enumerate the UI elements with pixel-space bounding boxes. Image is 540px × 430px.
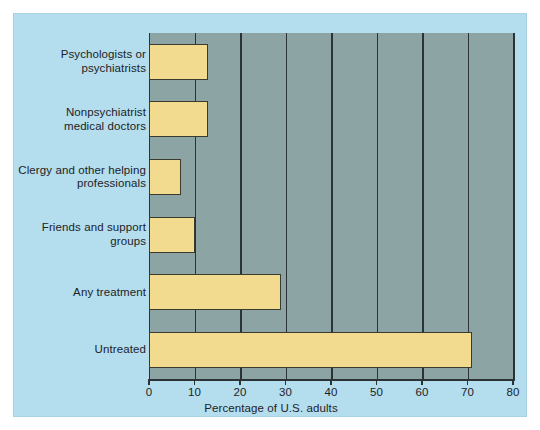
x-tick-60 xyxy=(421,379,423,385)
x-tick-label-70: 70 xyxy=(448,386,488,398)
category-label-line: Friends and support xyxy=(0,221,146,235)
x-tick-40 xyxy=(330,379,332,385)
x-tick-label-0: 0 xyxy=(129,386,169,398)
bar-2 xyxy=(149,159,181,195)
x-tick-30 xyxy=(285,379,287,385)
x-tick-label-80: 80 xyxy=(493,386,533,398)
category-label-0: Psychologists orpsychiatrists xyxy=(0,48,146,75)
bar-1 xyxy=(149,101,208,137)
x-axis-line xyxy=(149,379,515,381)
bar-row xyxy=(149,91,513,149)
x-tick-0 xyxy=(148,379,150,385)
category-label-2: Clergy and other helpingprofessionals xyxy=(0,164,146,191)
category-label-line: Nonpsychiatrist xyxy=(0,106,146,120)
category-label-line: professionals xyxy=(0,177,146,191)
x-tick-label-40: 40 xyxy=(311,386,351,398)
bar-5 xyxy=(149,332,472,368)
category-label-line: Any treatment xyxy=(0,286,146,300)
bar-4 xyxy=(149,274,281,310)
x-tick-label-20: 20 xyxy=(220,386,260,398)
category-label-line: medical doctors xyxy=(0,120,146,134)
category-label-5: Untreated xyxy=(0,343,146,357)
category-label-line: Untreated xyxy=(0,343,146,357)
x-tick-20 xyxy=(239,379,241,385)
x-tick-label-50: 50 xyxy=(357,386,397,398)
bar-row xyxy=(149,264,513,322)
category-label-line: Psychologists or xyxy=(0,48,146,62)
x-axis-label: Percentage of U.S. adults xyxy=(14,402,528,414)
x-tick-70 xyxy=(467,379,469,385)
bar-row xyxy=(149,321,513,379)
category-label-1: Nonpsychiatristmedical doctors xyxy=(0,106,146,133)
x-tick-label-60: 60 xyxy=(402,386,442,398)
bar-row xyxy=(149,33,513,91)
category-label-line: groups xyxy=(0,235,146,249)
bar-0 xyxy=(149,44,208,80)
x-tick-10 xyxy=(194,379,196,385)
x-tick-label-10: 10 xyxy=(175,386,215,398)
x-tick-50 xyxy=(376,379,378,385)
bar-row xyxy=(149,206,513,264)
category-label-4: Any treatment xyxy=(0,286,146,300)
category-label-line: psychiatrists xyxy=(0,62,146,76)
bar-3 xyxy=(149,217,195,253)
x-tick-label-30: 30 xyxy=(266,386,306,398)
category-label-line: Clergy and other helping xyxy=(0,164,146,178)
x-tick-80 xyxy=(512,379,514,385)
category-label-3: Friends and supportgroups xyxy=(0,221,146,248)
gridline-80 xyxy=(513,33,515,379)
chart-figure: Psychologists orpsychiatristsNonpsychiat… xyxy=(13,13,527,417)
bar-row xyxy=(149,148,513,206)
